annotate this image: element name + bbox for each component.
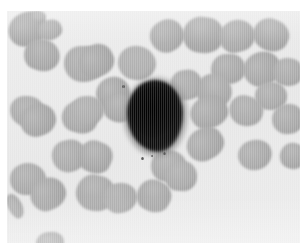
red-blood-cell	[234, 135, 276, 174]
debris-speck	[163, 152, 166, 155]
screenshot-root	[0, 0, 306, 249]
red-blood-cell	[181, 121, 230, 167]
red-blood-cell	[164, 160, 198, 193]
debris-speck	[151, 155, 153, 157]
debris-speck	[122, 85, 125, 88]
red-blood-cell	[35, 231, 64, 243]
blood-smear-micrograph	[7, 11, 300, 243]
debris-speck	[141, 157, 144, 160]
red-blood-cell	[276, 139, 300, 172]
red-blood-cell	[7, 191, 27, 221]
leukocyte-nucleus	[131, 86, 177, 138]
red-blood-cell	[248, 13, 293, 56]
